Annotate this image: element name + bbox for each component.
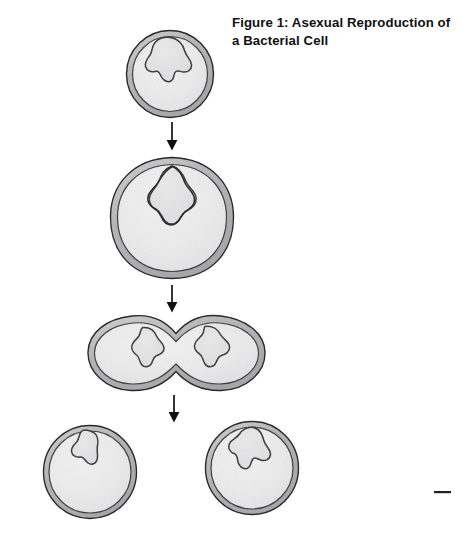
stage-1-parent-cell bbox=[127, 31, 214, 118]
bacterial-reproduction-diagram bbox=[0, 0, 466, 550]
figure-caption: Figure 1: Asexual Reproduction of a Bact… bbox=[232, 14, 447, 50]
figure-caption-line-1: Figure 1: Asexual Reproduction of bbox=[232, 14, 447, 32]
stage-2-replicating-cell bbox=[111, 158, 234, 279]
stage-4-daughter-cell-left bbox=[44, 426, 137, 519]
figure-caption-line-2: a Bacterial Cell bbox=[232, 32, 447, 50]
arrow-stage2-to-stage3 bbox=[167, 285, 178, 313]
arrow-stage3-to-stage4 bbox=[169, 395, 180, 423]
stage-4-daughter-cell-right bbox=[206, 422, 299, 515]
figure-container: Figure 1: Asexual Reproduction of a Bact… bbox=[0, 0, 466, 550]
dash-mark bbox=[434, 491, 451, 493]
stage-3-constricting-cell bbox=[88, 315, 265, 390]
arrow-stage1-to-stage2 bbox=[167, 122, 178, 151]
